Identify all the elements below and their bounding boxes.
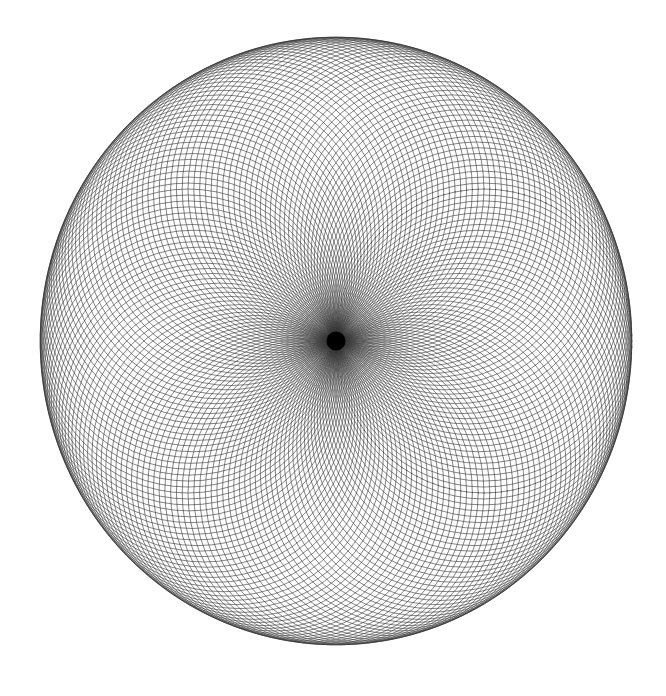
- circle-pencil-rosette: [0, 0, 666, 696]
- focal-core-dot: [327, 332, 346, 351]
- figure-container: [0, 0, 666, 696]
